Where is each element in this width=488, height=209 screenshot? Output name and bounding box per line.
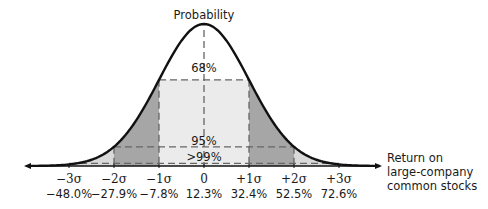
tick-value-label: 72.6% (321, 187, 358, 201)
tick-sigma-label: +1σ (236, 172, 262, 186)
band-label-99: >99% (186, 150, 221, 164)
tick-sigma-label: +3σ (326, 172, 352, 186)
tick-sigma-label: +2σ (281, 172, 307, 186)
tick-sigma-label: −1σ (146, 172, 172, 186)
x-axis-title-line1: Return on (387, 151, 443, 165)
tick-value-label: 52.5% (276, 187, 313, 201)
tick-value-label: 32.4% (231, 187, 268, 201)
x-axis-title-line3: common stocks (387, 179, 477, 193)
tick-sigma-label: −3σ (56, 172, 82, 186)
axis-tick-labels: −3σ−48.0%−2σ−27.9%−1σ−7.8%012.3%+1σ32.4%… (46, 164, 357, 201)
tick-sigma-label: −2σ (101, 172, 127, 186)
tick-value-label: −48.0% (46, 187, 92, 201)
tick-value-label: 12.3% (186, 187, 223, 201)
arrow-left-icon (24, 163, 31, 169)
band-label-95: 95% (191, 134, 217, 148)
tick-sigma-label: 0 (200, 172, 208, 186)
normal-distribution-chart: −3σ−48.0%−2σ−27.9%−1σ−7.8%012.3%+1σ32.4%… (0, 0, 488, 209)
band-label-68: 68% (191, 61, 217, 75)
tick-value-label: −7.8% (140, 187, 179, 201)
x-axis-title-line2: large-company (387, 165, 473, 179)
tick-value-label: −27.9% (91, 187, 137, 201)
y-axis-title: Probability (174, 8, 235, 22)
arrow-right-icon (375, 163, 382, 169)
